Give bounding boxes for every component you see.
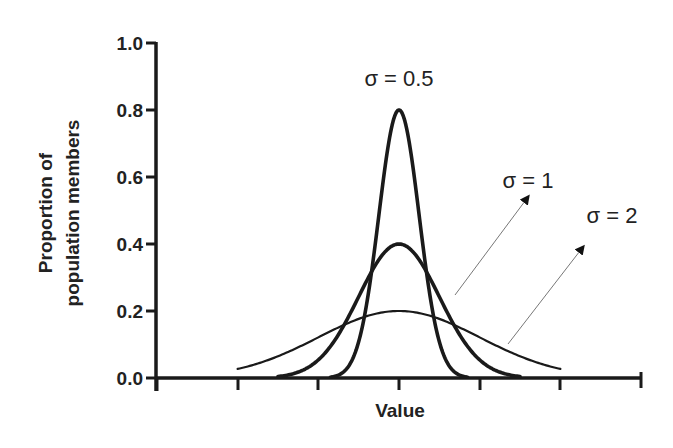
x-axis-title: Value [375,400,425,421]
annotations: σ = 0.5 σ = 1 σ = 2 [364,66,637,344]
x-axis: Value [156,372,642,421]
x-ticks [157,372,641,391]
y-axis-title: Proportion of population members [35,120,83,307]
annotation-sigma-2: σ = 2 [587,203,638,228]
y-tick-label: 0.8 [117,100,143,121]
y-axis: 1.0 0.8 0.6 0.4 0.2 0.0 [117,33,156,391]
y-tick-label: 1.0 [117,33,143,54]
curves [238,110,561,377]
y-tick-label: 0.6 [117,167,143,188]
normal-distribution-chart: 1.0 0.8 0.6 0.4 0.2 0.0 Proportion of po… [0,0,673,448]
y-axis-title-line1: Proportion of [35,152,56,273]
y-tick-label: 0.4 [117,234,144,255]
annotation-sigma-0-5: σ = 0.5 [364,66,433,91]
annotation-sigma-1: σ = 1 [503,168,554,193]
y-tick-label: 0.2 [117,301,143,322]
curve-sigma-2 [238,311,561,369]
arrow-sigma-2 [508,247,583,344]
y-tick-label: 0.0 [117,368,143,389]
arrow-sigma-1 [455,197,528,295]
y-axis-title-line2: population members [62,120,83,307]
